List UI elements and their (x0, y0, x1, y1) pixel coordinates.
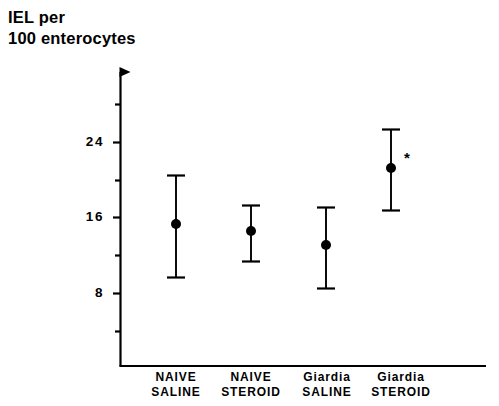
y-tick-label-16: 16 (58, 209, 104, 224)
data-point-naive-steroid (242, 205, 260, 262)
y-tick-label-24: 24 (58, 134, 104, 149)
mean-marker (386, 163, 396, 173)
data-point-giardia-saline (317, 207, 335, 289)
x-tick-label-line2: STEROID (355, 385, 447, 400)
mean-marker (171, 219, 181, 229)
figure-panel: IEL per100 enterocytes (0, 0, 499, 406)
y-tick-label-8: 8 (58, 285, 104, 300)
x-tick-label-line1: Giardia (355, 370, 447, 385)
x-tick-label-giardia-steroid: Giardia STEROID (355, 370, 447, 400)
plot-area (0, 0, 499, 406)
mean-marker (321, 240, 331, 250)
data-point-giardia-steroid (382, 129, 400, 211)
mean-marker (246, 226, 256, 236)
significance-asterisk: * (404, 150, 410, 165)
data-point-naive-saline (167, 175, 185, 278)
